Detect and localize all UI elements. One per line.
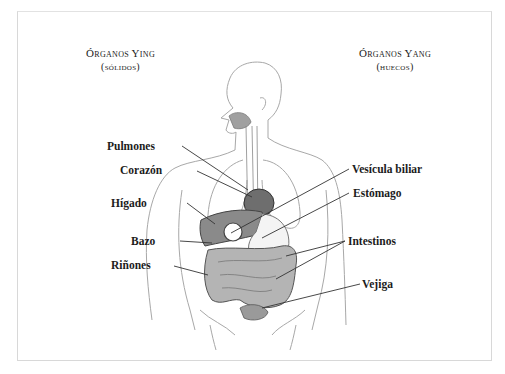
heading-yin-subtitle: (sólidos) — [58, 60, 183, 74]
label-rinones: Riñones — [111, 258, 151, 272]
label-vesicula-biliar: Vesícula biliar — [352, 162, 422, 176]
label-vejiga: Vejiga — [362, 277, 393, 291]
label-estomago: Estómago — [353, 186, 402, 200]
label-bazo: Bazo — [131, 234, 155, 248]
heading-yang-organs: Órganos Yang (huecos) — [330, 46, 460, 74]
mouth-throat — [229, 113, 251, 129]
heading-yin-title: Órganos Ying — [86, 47, 155, 59]
heading-yin-organs: Órganos Ying (sólidos) — [58, 46, 183, 74]
heading-yang-subtitle: (huecos) — [330, 60, 460, 74]
label-pulmones: Pulmones — [107, 139, 155, 153]
label-higado: Hígado — [111, 196, 147, 210]
label-corazon: Corazón — [120, 163, 162, 177]
heading-yang-title: Órganos Yang — [359, 47, 431, 59]
label-intestinos: Intestinos — [348, 234, 396, 248]
